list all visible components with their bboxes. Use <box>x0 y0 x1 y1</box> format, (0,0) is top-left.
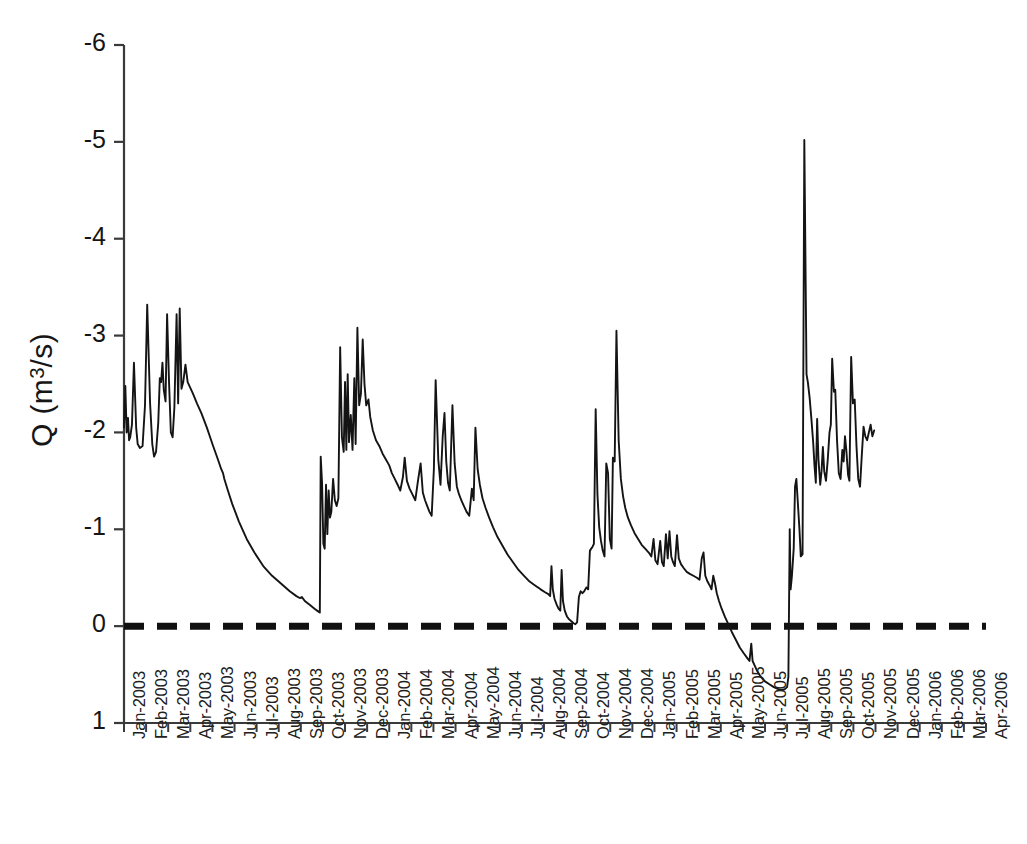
x-axis-tick-label: Jan-2003 <box>130 671 149 739</box>
x-axis-tick-label: Aug-2004 <box>550 668 569 739</box>
x-axis-tick-label: Nov-2004 <box>616 668 635 739</box>
x-axis-tick-label: Feb-2005 <box>683 669 702 739</box>
x-axis-tick-label: Aug-2005 <box>815 668 834 739</box>
x-axis-tick-label: Feb-2006 <box>948 669 967 739</box>
x-axis-tick-label: Sep-2005 <box>837 668 856 739</box>
y-axis-ticks <box>114 45 124 723</box>
x-axis-tick-label: Oct-2005 <box>859 672 878 739</box>
x-axis-tick-label: Oct-2003 <box>329 672 348 739</box>
x-axis-tick-label: Jul-2005 <box>793 677 812 740</box>
x-axis-tick-label: Apr-2003 <box>196 672 215 739</box>
x-axis-tick-label: Dec-2004 <box>638 668 657 739</box>
x-axis-tick-label: Jul-2004 <box>528 677 547 740</box>
x-axis-tick-label: Dec-2005 <box>904 668 923 739</box>
x-axis-tick-label: Mar-2004 <box>439 669 458 739</box>
x-axis-tick-label: Mar-2006 <box>970 669 989 739</box>
x-axis-tick-label: Nov-2003 <box>351 668 370 739</box>
x-axis-tick-label: Jan-2004 <box>395 671 414 739</box>
x-axis-tick-label: Mar-2005 <box>705 669 724 739</box>
x-axis-tick-label: Apr-2004 <box>462 672 481 739</box>
discharge-series-line <box>124 140 874 690</box>
y-axis-tick-label: -3 <box>44 319 106 348</box>
x-axis-tick-label: Jun-2005 <box>771 671 790 739</box>
x-axis-tick-label: Sep-2003 <box>307 668 326 739</box>
y-axis-tick-label: -1 <box>44 512 106 541</box>
x-axis-tick-label: Aug-2003 <box>285 668 304 739</box>
y-axis-tick-label: -4 <box>44 222 106 251</box>
x-axis-tick-label: Jul-2003 <box>263 677 282 740</box>
x-axis-tick-label: Jun-2004 <box>506 671 525 739</box>
x-axis-tick-label: Feb-2004 <box>417 669 436 739</box>
x-axis-tick-label: Jan-2005 <box>660 671 679 739</box>
hydrograph-figure: Q (m3/s) -6-5-4-3-2-101 Jan-2003Feb-2003… <box>0 0 1027 844</box>
y-axis-tick-label: 0 <box>44 609 106 638</box>
y-axis-tick-label: -5 <box>44 125 106 154</box>
x-axis-tick-label: May-2003 <box>218 666 237 739</box>
y-axis-tick-label: 1 <box>44 706 106 735</box>
y-axis-tick-label: -6 <box>44 28 106 57</box>
x-axis-tick-label: Sep-2004 <box>572 668 591 739</box>
x-axis-tick-label: Oct-2004 <box>594 672 613 739</box>
x-axis-tick-label: Jan-2006 <box>926 671 945 739</box>
x-axis-tick-label: May-2005 <box>749 666 768 739</box>
x-axis-tick-label: Apr-2006 <box>992 672 1011 739</box>
x-axis-tick-label: Apr-2005 <box>727 672 746 739</box>
x-axis-tick-label: Nov-2005 <box>881 668 900 739</box>
x-axis-tick-label: Feb-2003 <box>152 669 171 739</box>
x-axis-tick-label: Jun-2003 <box>241 671 260 739</box>
x-axis-tick-label: May-2004 <box>484 666 503 739</box>
x-axis-tick-label: Dec-2003 <box>373 668 392 739</box>
y-axis-tick-label: -2 <box>44 415 106 444</box>
x-axis-tick-label: Mar-2003 <box>174 669 193 739</box>
